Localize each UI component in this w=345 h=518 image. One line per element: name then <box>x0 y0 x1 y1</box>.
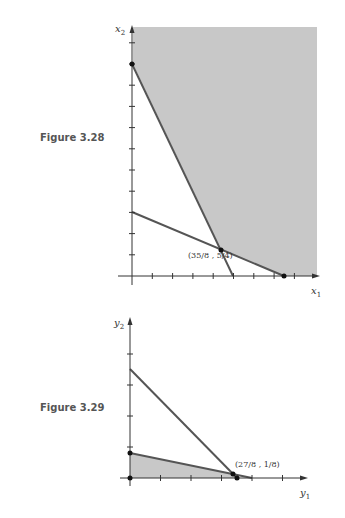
x1-axis-label: x1 <box>311 285 321 299</box>
vertex-point <box>231 472 236 477</box>
intersection-label: (27/8 , 1/8) <box>235 460 280 469</box>
x2-axis-label: x2 <box>115 23 125 37</box>
y1-axis-label: y1 <box>299 487 310 501</box>
y1-axis-arrow-icon <box>300 476 308 481</box>
feasible-region <box>133 27 317 276</box>
y2-axis-label: y2 <box>113 317 124 331</box>
vertex-point <box>282 274 287 279</box>
vertex-point <box>235 476 240 481</box>
y2-axis-arrow-icon <box>128 317 133 325</box>
intersection-label: (35/8 , 5/4) <box>188 251 233 260</box>
figure-3-29-plot: (27/8 , 1/8) y2 y1 <box>113 317 310 501</box>
vertex-point <box>128 451 133 456</box>
vertex-point <box>128 476 133 481</box>
vertex-point <box>130 62 135 67</box>
figures-canvas: (35/8 , 5/4) x2 x1 (27/8 , 1/8) y2 <box>0 0 345 518</box>
figure-3-28-plot: (35/8 , 5/4) x2 x1 <box>115 23 321 299</box>
